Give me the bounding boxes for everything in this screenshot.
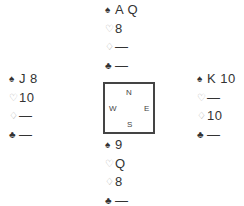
east-hand: ♠ K 10 ♡ — ♢ 10 ♣ — [197, 70, 236, 144]
heart-icon: ♡ [105, 20, 115, 39]
diamond-icon: ♢ [197, 107, 207, 126]
club-icon: ♣ [9, 126, 19, 145]
south-hand: ♠ 9 ♡ Q ♢ 8 ♣ — [105, 136, 129, 205]
club-icon: ♣ [105, 192, 115, 206]
south-spades-cards: 9 [115, 136, 123, 155]
spade-icon: ♠ [197, 70, 207, 89]
south-clubs-row: ♣ — [105, 192, 129, 206]
compass-box: N W E S [103, 82, 155, 134]
north-clubs-row: ♣ — [105, 57, 138, 76]
west-clubs-cards: — [19, 126, 33, 145]
heart-icon: ♡ [105, 155, 115, 174]
south-clubs-cards: — [115, 192, 129, 206]
compass-east-label: E [144, 105, 149, 113]
west-hand: ♠ J 8 ♡ 10 ♢ — ♣ — [9, 70, 38, 144]
east-clubs-row: ♣ — [197, 126, 236, 145]
east-hearts-row: ♡ — [197, 89, 236, 108]
west-clubs-row: ♣ — [9, 126, 38, 145]
south-diamonds-cards: 8 [115, 173, 123, 192]
north-hearts-row: ♡ 8 [105, 20, 138, 39]
heart-icon: ♡ [197, 89, 207, 108]
spade-icon: ♠ [9, 70, 19, 89]
north-clubs-cards: — [115, 57, 129, 76]
west-hearts-cards: 10 [19, 89, 34, 108]
south-hearts-row: ♡ Q [105, 155, 129, 174]
north-diamonds-row: ♢ — [105, 38, 138, 57]
south-hearts-cards: Q [115, 155, 126, 174]
heart-icon: ♡ [9, 89, 19, 108]
east-hearts-cards: — [207, 89, 221, 108]
east-spades-row: ♠ K 10 [197, 70, 236, 89]
north-hearts-cards: 8 [115, 20, 123, 39]
east-diamonds-cards: 10 [207, 107, 222, 126]
north-spades-cards: A Q [115, 1, 138, 20]
spade-icon: ♠ [105, 136, 115, 155]
club-icon: ♣ [105, 57, 115, 76]
south-spades-row: ♠ 9 [105, 136, 129, 155]
east-diamonds-row: ♢ 10 [197, 107, 236, 126]
diamond-icon: ♢ [9, 107, 19, 126]
diamond-icon: ♢ [105, 38, 115, 57]
west-diamonds-row: ♢ — [9, 107, 38, 126]
south-diamonds-row: ♢ 8 [105, 173, 129, 192]
north-spades-row: ♠ A Q [105, 1, 138, 20]
north-diamonds-cards: — [115, 38, 129, 57]
west-spades-cards: J 8 [19, 70, 38, 89]
east-spades-cards: K 10 [207, 70, 236, 89]
east-clubs-cards: — [207, 126, 221, 145]
compass-west-label: W [109, 105, 117, 113]
club-icon: ♣ [197, 126, 207, 145]
compass-north-label: N [126, 89, 132, 97]
west-hearts-row: ♡ 10 [9, 89, 38, 108]
north-hand: ♠ A Q ♡ 8 ♢ — ♣ — [105, 1, 138, 75]
west-spades-row: ♠ J 8 [9, 70, 38, 89]
compass-south-label: S [127, 121, 132, 129]
west-diamonds-cards: — [19, 107, 33, 126]
spade-icon: ♠ [105, 1, 115, 20]
diamond-icon: ♢ [105, 173, 115, 192]
